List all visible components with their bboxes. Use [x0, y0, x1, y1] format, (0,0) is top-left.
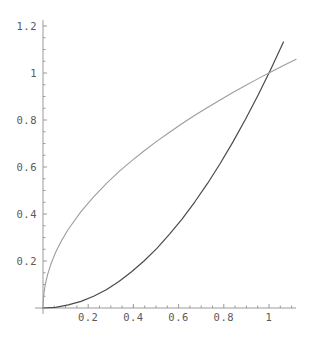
x-tick-label: 0.8	[204, 312, 244, 323]
y-tick-label: 0.6	[0, 162, 37, 173]
x-tick-label: 0.4	[113, 312, 153, 323]
y-axis-ticks	[43, 26, 47, 296]
axes-group	[35, 20, 296, 314]
y-tick-label: 0.2	[0, 256, 37, 267]
y-tick-label: 1	[0, 68, 37, 79]
x-tick-label: 1	[249, 312, 289, 323]
y-tick-label: 0.4	[0, 209, 37, 220]
x-tick-label: 0.2	[68, 312, 108, 323]
curve-2	[43, 59, 296, 308]
x-tick-label: 0.6	[159, 312, 199, 323]
y-tick-label: 1.2	[0, 21, 37, 32]
y-tick-label: 0.8	[0, 115, 37, 126]
plot-canvas: 0.20.40.60.810.20.40.60.811.2	[0, 0, 314, 340]
data-series-group	[43, 42, 296, 308]
chart-svg	[0, 0, 314, 340]
x-axis-ticks	[54, 304, 291, 308]
curve-1	[43, 42, 283, 308]
